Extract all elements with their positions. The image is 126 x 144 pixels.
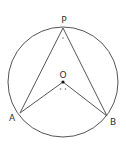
label-O: O [59,70,66,80]
label-B: B [110,117,116,127]
label-P: P [61,15,67,25]
circle-diagram: P O A B [0,0,126,144]
angle-mark-O-2 [65,88,67,90]
center-point-O [61,80,64,83]
segment-OB [63,82,107,116]
angle-mark-P [62,37,64,39]
segment-OA [20,82,63,113]
label-A: A [9,113,16,123]
angle-mark-O-1 [60,88,62,90]
